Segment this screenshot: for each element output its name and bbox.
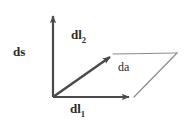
label-dl1-subscript: 1 (81, 109, 85, 119)
vector-diagram-canvas (0, 0, 187, 126)
label-da-text: da (118, 60, 129, 74)
label-da: da (118, 61, 129, 73)
label-dl2: dl2 (71, 28, 86, 44)
label-dl2-subscript: 2 (82, 35, 86, 45)
label-dl2-text: dl (71, 27, 82, 42)
label-ds-text: ds (13, 44, 25, 59)
da-top-edge (113, 53, 177, 54)
label-dl1: dl1 (70, 102, 85, 118)
label-dl1-text: dl (70, 101, 81, 116)
vector-arrows (53, 16, 129, 97)
da-right-edge (134, 53, 177, 97)
vector-dl2-arrow (53, 57, 110, 97)
label-ds: ds (13, 45, 25, 58)
